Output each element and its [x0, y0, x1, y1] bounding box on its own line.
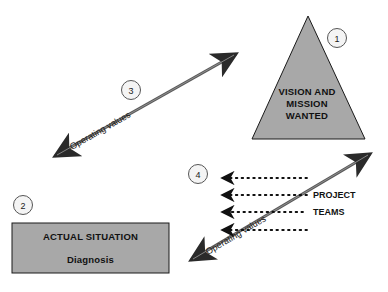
badge-1-label: 1: [334, 34, 339, 44]
diagram-canvas: VISION AND MISSION WANTED 1 ACTUAL SITUA…: [0, 0, 388, 292]
operating-values-arrow-upper-group: Operating values: [55, 54, 236, 156]
vision-triangle-line-1: VISION AND: [278, 86, 335, 97]
badge-2-label: 2: [20, 201, 25, 211]
side-label-project: PROJECT: [313, 190, 356, 200]
operating-values-label-lower: Operating values: [204, 213, 268, 256]
badge-4-group: 4: [189, 165, 208, 184]
vision-triangle-line-2: MISSION: [286, 98, 328, 109]
badge-3-label: 3: [128, 86, 133, 96]
side-label-group: PROJECT TEAMS: [313, 190, 356, 217]
diagram-svg: VISION AND MISSION WANTED 1 ACTUAL SITUA…: [0, 0, 388, 292]
actual-situation-subtitle: Diagnosis: [67, 254, 114, 265]
actual-situation-title: ACTUAL SITUATION: [43, 231, 138, 242]
vision-triangle-line-3: WANTED: [286, 110, 328, 121]
badge-4-label: 4: [195, 170, 200, 180]
badge-3-group: 3: [122, 81, 141, 100]
badge-2-group: 2: [14, 196, 33, 215]
side-label-teams: TEAMS: [313, 207, 345, 217]
badge-1-group: 1: [328, 29, 347, 48]
vision-triangle-group: VISION AND MISSION WANTED: [252, 16, 365, 139]
operating-values-label-upper: Operating values: [68, 109, 133, 151]
actual-situation-group: ACTUAL SITUATION Diagnosis: [12, 223, 169, 273]
